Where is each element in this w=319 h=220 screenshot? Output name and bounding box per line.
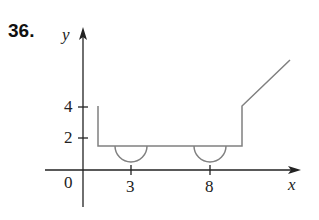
x-axis-label: x bbox=[287, 175, 296, 194]
graph: y x 4 2 0 3 8 bbox=[0, 0, 319, 220]
origin-label: 0 bbox=[64, 173, 73, 192]
x-tick-label-8: 8 bbox=[205, 177, 214, 196]
x-tick-label-3: 3 bbox=[126, 177, 135, 196]
semicircle-at-8 bbox=[194, 146, 226, 162]
y-tick-label-2: 2 bbox=[64, 128, 73, 147]
y-tick-label-4: 4 bbox=[64, 97, 73, 116]
function-curve bbox=[98, 60, 290, 162]
y-axis-label: y bbox=[60, 25, 70, 44]
axes bbox=[45, 34, 292, 207]
semicircle-at-3 bbox=[115, 146, 147, 162]
graph-polyline bbox=[98, 60, 290, 146]
